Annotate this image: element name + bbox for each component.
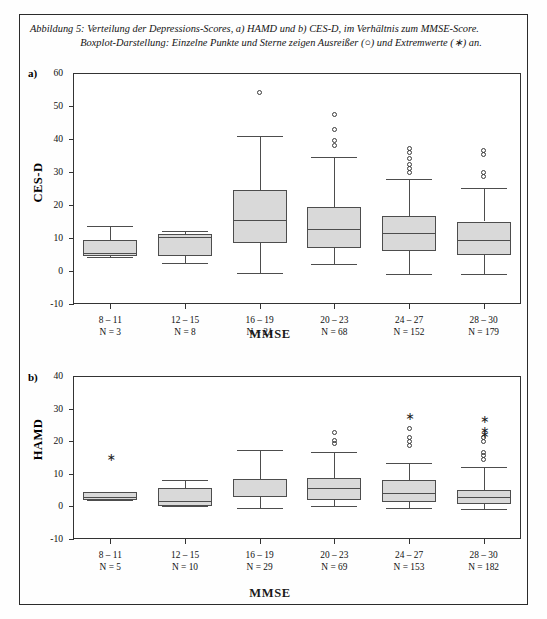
- panel-b-xtick-0: [110, 539, 111, 544]
- panel-a-whisker-cap-lower-0: [87, 257, 133, 258]
- panel-b-extreme-0-0: ∗: [107, 455, 114, 461]
- panel-b-x-axis-title: MMSE: [190, 586, 350, 601]
- panel-a-ytick-mark: [69, 271, 74, 272]
- panel-b-whisker-upper-5: [484, 467, 485, 490]
- panel-a-ytick-10: 10: [37, 232, 63, 243]
- panel-a-whisker-cap-upper-4: [386, 179, 432, 180]
- panel-a-ytick-40: 40: [37, 133, 63, 144]
- panel-a-median-0: [83, 253, 137, 254]
- panel-b-ytick-mark: [69, 441, 74, 442]
- xlabel-count: N = 5: [72, 561, 148, 573]
- panel-a-xlabel-2: 16 – 19N = 21: [222, 314, 298, 339]
- panel-a-whisker-cap-upper-1: [162, 231, 208, 232]
- panel-b-ytick-10: 10: [37, 468, 63, 479]
- panel-a-ytick-60: 60: [37, 67, 63, 78]
- xlabel-count: N = 29: [222, 561, 298, 573]
- panel-a-whisker-upper-0: [110, 226, 111, 239]
- panel-b-xlabel-1: 12 – 15N = 10: [147, 549, 223, 574]
- panel-a-whisker-cap-lower-1: [162, 263, 208, 264]
- xlabel-range: 12 – 15: [147, 549, 223, 561]
- xlabel-range: 20 – 23: [296, 549, 372, 561]
- panel-a-whisker-upper-4: [409, 179, 410, 215]
- panel-a-ytick-mark: [69, 205, 74, 206]
- panel-b-whisker-upper-3: [334, 452, 335, 478]
- panel-b-ytick-mark: [69, 506, 74, 507]
- caption-line-1: Abbildung 5: Verteilung der Depressions-…: [30, 22, 518, 36]
- panel-a-outlier-4-1: [407, 150, 412, 155]
- panel-b-xlabel-2: 16 – 19N = 29: [222, 549, 298, 574]
- panel-b-whisker-cap-upper-5: [461, 467, 507, 468]
- panel-b-whisker-cap-lower-1: [162, 506, 208, 507]
- panel-b-ytick-30: 30: [37, 403, 63, 414]
- panel-a-ytick-0: 0: [37, 265, 63, 276]
- xlabel-range: 16 – 19: [222, 549, 298, 561]
- panel-a-box-2: [233, 190, 287, 243]
- panel-a-whisker-cap-upper-2: [237, 136, 283, 137]
- xlabel-count: N = 153: [371, 561, 447, 573]
- panel-a-whisker-cap-lower-4: [386, 274, 432, 275]
- panel-a-median-2: [233, 220, 287, 221]
- panel-b-ytick-40: 40: [37, 370, 63, 381]
- panel-b-whisker-cap-lower-4: [386, 508, 432, 509]
- panel-b-median-0: [83, 497, 137, 498]
- figure-page: Abbildung 5: Verteilung der Depressions-…: [0, 0, 547, 619]
- panel-a-median-1: [158, 237, 212, 238]
- xlabel-count: N = 69: [296, 561, 372, 573]
- panel-b-extreme-4-0: ∗: [406, 414, 413, 420]
- xlabel-count: N = 179: [446, 326, 522, 338]
- panel-b-outlier-4-0: [407, 426, 412, 431]
- xlabel-count: N = 3: [72, 326, 148, 338]
- xlabel-range: 24 – 27: [371, 549, 447, 561]
- panel-a-plot-frame: [73, 73, 521, 304]
- panel-b-whisker-lower-2: [260, 497, 261, 508]
- panel-b-ytick-mark: [69, 539, 74, 540]
- panel-a-outlier-3-3: [332, 143, 337, 148]
- xlabel-range: 28 – 30: [446, 314, 522, 326]
- caption-line-2: Boxplot-Darstellung: Einzelne Punkte und…: [30, 36, 518, 50]
- panel-a-xtick-2: [260, 304, 261, 309]
- panel-b-whisker-upper-4: [409, 463, 410, 480]
- panel-b-whisker-cap-lower-0: [87, 500, 133, 501]
- panel-b-xlabel-4: 24 – 27N = 153: [371, 549, 447, 574]
- xlabel-count: N = 8: [147, 326, 223, 338]
- panel-a-ytick-20: 20: [37, 199, 63, 210]
- panel-a-y-axis-title: CES-D: [31, 143, 46, 223]
- panel-b-xlabel-5: 28 – 30N = 182: [446, 549, 522, 574]
- panel-b-ytick-mark: [69, 409, 74, 410]
- xlabel-range: 24 – 27: [371, 314, 447, 326]
- panel-a-whisker-upper-5: [484, 188, 485, 222]
- panel-b-xlabel-0: 8 – 11N = 5: [72, 549, 148, 574]
- panel-a-xlabel-1: 12 – 15N = 8: [147, 314, 223, 339]
- xlabel-count: N = 10: [147, 561, 223, 573]
- xlabel-range: 8 – 11: [72, 314, 148, 326]
- panel-a-ytick-mark: [69, 106, 74, 107]
- panel-a-median-3: [307, 229, 361, 230]
- panel-b-extreme-5-0: ∗: [480, 417, 487, 423]
- panel-a-xtick-1: [185, 304, 186, 309]
- panel-a-whisker-cap-upper-5: [461, 188, 507, 189]
- panel-b-whisker-cap-upper-3: [311, 452, 357, 453]
- panel-a-whisker-lower-1: [185, 256, 186, 263]
- panel-b-median-5: [457, 497, 511, 498]
- panel-a-box-3: [307, 207, 361, 248]
- panel-a-xtick-0: [110, 304, 111, 309]
- panel-b-plot-frame: [73, 376, 521, 539]
- xlabel-range: 8 – 11: [72, 549, 148, 561]
- panel-b-median-4: [382, 493, 436, 494]
- panel-a-whisker-cap-lower-5: [461, 274, 507, 275]
- panel-b-whisker-cap-upper-2: [237, 450, 283, 451]
- panel-b-box-1: [158, 488, 212, 507]
- panel-a-letter: a): [28, 67, 37, 79]
- panel-b-extreme-5-2: ∗: [480, 432, 487, 438]
- panel-a-box-5: [457, 222, 511, 255]
- panel-a-ytick-30: 30: [37, 166, 63, 177]
- panel-a-whisker-cap-upper-3: [311, 157, 357, 158]
- panel-b-xtick-2: [260, 539, 261, 544]
- panel-a-ytick-mark: [69, 172, 74, 173]
- panel-a-outlier-4-2: [407, 156, 412, 161]
- panel-a-outlier-2-0: [257, 90, 262, 95]
- xlabel-range: 16 – 19: [222, 314, 298, 326]
- panel-a-ytick--10: -10: [37, 298, 63, 309]
- panel-b-xtick-3: [334, 539, 335, 544]
- panel-b-ytick-20: 20: [37, 435, 63, 446]
